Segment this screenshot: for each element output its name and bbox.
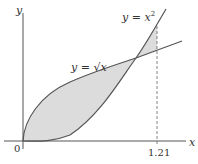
sqrt-label: y = √x <box>70 61 107 74</box>
origin-label: 0 <box>14 143 20 154</box>
x-axis-label: x <box>189 136 196 149</box>
parabola-label: y = x2 <box>121 10 155 24</box>
area-between-curves-diagram: y x 0 1.21 y = x2 y = √x <box>0 0 198 164</box>
y-axis-label: y <box>15 4 23 17</box>
x-tick-label: 1.21 <box>148 147 170 158</box>
